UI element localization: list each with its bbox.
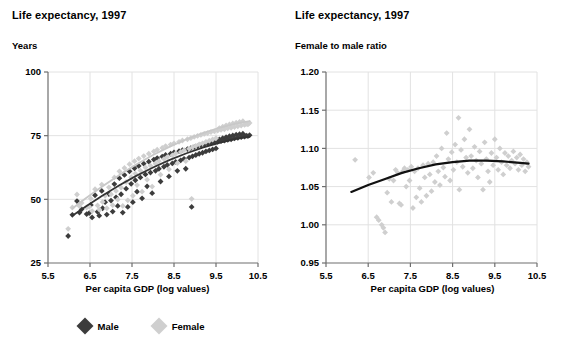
data-point	[460, 164, 466, 170]
y-tick-label: 1.20	[301, 66, 320, 77]
x-tick-label: 10.5	[528, 270, 547, 281]
data-point	[413, 194, 419, 200]
data-point	[134, 189, 140, 195]
data-point	[485, 168, 491, 174]
data-point	[104, 205, 110, 211]
legend: Male Female	[0, 312, 283, 340]
x-tick-label: 8.5	[167, 270, 181, 281]
y-tick-label: 1.05	[301, 181, 320, 192]
y-tick-label: 100	[25, 66, 41, 77]
diamond-light-icon	[150, 318, 167, 335]
data-point	[139, 189, 145, 195]
data-point	[475, 175, 481, 181]
legend-label-female: Female	[172, 321, 205, 332]
data-point	[125, 197, 131, 203]
data-point	[389, 199, 395, 205]
data-point	[104, 212, 110, 218]
data-point	[74, 192, 80, 198]
data-point	[497, 146, 503, 152]
data-point	[352, 157, 358, 163]
data-point	[470, 165, 476, 171]
scatter-plot-years: 2550751005.56.57.58.59.510.5	[0, 0, 283, 300]
data-point	[445, 156, 451, 162]
data-point	[516, 167, 522, 173]
series-female-to-male-ratio	[352, 115, 531, 235]
data-point	[134, 182, 140, 188]
data-point	[456, 115, 462, 121]
data-point	[149, 190, 155, 196]
data-point	[120, 210, 126, 216]
data-point	[465, 170, 471, 176]
data-point	[189, 196, 195, 202]
data-point	[403, 184, 409, 190]
data-point	[444, 130, 450, 136]
data-point	[452, 142, 458, 148]
data-point	[468, 153, 474, 159]
data-point	[158, 179, 164, 185]
x-tick-label: 9.5	[488, 270, 502, 281]
x-tick-label: 7.5	[125, 270, 139, 281]
data-point	[118, 191, 124, 197]
x-tick-label: 8.5	[446, 270, 460, 281]
x-tick-label: 6.5	[362, 270, 376, 281]
chart-panel-life-expectancy-years: Life expectancy, 1997 Years 2550751005.5…	[0, 0, 283, 347]
y-tick-label: 1.00	[301, 219, 320, 230]
data-point	[437, 182, 443, 188]
data-point	[510, 149, 516, 155]
data-point	[463, 155, 469, 161]
y-tick-label: 0.95	[301, 257, 320, 268]
data-point	[424, 193, 430, 199]
chart-panel-female-to-male-ratio: Life expectancy, 1997 Female to male rat…	[283, 0, 566, 347]
data-point	[432, 179, 438, 185]
x-axis-label: Per capita GDP (log values)	[291, 283, 566, 294]
data-point	[130, 199, 136, 205]
data-point	[110, 202, 116, 208]
x-tick-label: 5.5	[319, 270, 333, 281]
data-point	[111, 181, 117, 187]
data-point	[115, 203, 121, 209]
data-point	[442, 174, 448, 180]
data-point	[139, 195, 145, 201]
data-point	[451, 167, 457, 173]
data-point	[108, 198, 114, 204]
data-point	[435, 168, 441, 174]
x-tick-label: 7.5	[404, 270, 418, 281]
data-point	[489, 150, 495, 156]
data-point	[480, 187, 486, 193]
data-point	[123, 186, 129, 192]
data-point	[149, 184, 155, 190]
y-tick-label: 50	[30, 194, 41, 205]
data-point	[495, 167, 501, 173]
data-point	[65, 233, 71, 239]
y-tick-label: 1.15	[301, 105, 320, 116]
x-tick-label: 6.5	[83, 270, 97, 281]
data-point	[183, 166, 189, 172]
scatter-plot-ratio: 0.951.001.051.101.151.205.56.57.58.59.51…	[283, 0, 566, 300]
data-point	[447, 178, 453, 184]
series-male	[65, 131, 252, 239]
data-point	[174, 168, 180, 174]
data-point	[407, 178, 413, 184]
data-point	[456, 187, 462, 193]
data-point	[366, 175, 372, 181]
data-point	[384, 190, 390, 196]
data-point	[434, 153, 440, 159]
data-point	[487, 179, 493, 185]
legend-entry-female[interactable]: Female	[153, 320, 205, 332]
legend-entry-male[interactable]: Male	[79, 320, 119, 332]
data-point	[166, 174, 172, 180]
data-point	[492, 136, 498, 142]
data-point	[429, 188, 435, 194]
data-point	[410, 205, 416, 211]
x-tick-label: 10.5	[249, 270, 268, 281]
data-point	[128, 181, 134, 187]
data-point	[417, 185, 423, 191]
data-point	[189, 204, 195, 210]
data-point	[439, 146, 445, 152]
data-point	[110, 209, 116, 215]
data-point	[500, 171, 506, 177]
data-point	[440, 165, 446, 171]
data-point	[370, 170, 376, 176]
x-tick-label: 9.5	[209, 270, 223, 281]
data-point	[482, 139, 488, 145]
